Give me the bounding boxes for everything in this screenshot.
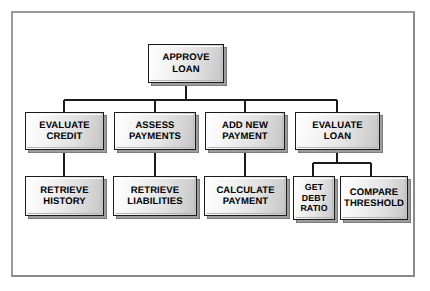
node-retrieve-liabilities[interactable]: RETRIEVE LIABILITIES bbox=[113, 176, 197, 216]
node-compare-threshold-label: COMPARE THRESHOLD bbox=[344, 187, 404, 210]
node-evaluate-loan-label: EVALUATE LOAN bbox=[312, 120, 363, 143]
node-calculate-payment-label: CALCULATE PAYMENT bbox=[216, 185, 274, 208]
node-retrieve-history-label: RETRIEVE HISTORY bbox=[40, 185, 88, 208]
node-get-debt-ratio[interactable]: GET DEBT RATIO bbox=[293, 176, 335, 220]
node-calculate-payment[interactable]: CALCULATE PAYMENT bbox=[204, 176, 287, 216]
node-evaluate-credit-label: EVALUATE CREDIT bbox=[39, 120, 90, 143]
node-evaluate-credit[interactable]: EVALUATE CREDIT bbox=[25, 112, 104, 150]
node-evaluate-loan[interactable]: EVALUATE LOAN bbox=[295, 112, 380, 150]
node-assess-payments-label: ASSESS PAYMENTS bbox=[129, 120, 181, 143]
node-approve-loan-label: APPROVE LOAN bbox=[162, 52, 209, 75]
node-add-new-payment[interactable]: ADD NEW PAYMENT bbox=[205, 112, 285, 150]
node-retrieve-liabilities-label: RETRIEVE LIABILITIES bbox=[127, 185, 182, 208]
node-compare-threshold[interactable]: COMPARE THRESHOLD bbox=[340, 176, 408, 220]
diagram-page: APPROVE LOAN EVALUATE CREDIT ASSESS PAYM… bbox=[0, 0, 430, 291]
node-get-debt-ratio-label: GET DEBT RATIO bbox=[300, 182, 327, 214]
diagram-canvas: APPROVE LOAN EVALUATE CREDIT ASSESS PAYM… bbox=[0, 0, 430, 291]
node-approve-loan[interactable]: APPROVE LOAN bbox=[148, 44, 224, 83]
node-add-new-payment-label: ADD NEW PAYMENT bbox=[222, 120, 268, 143]
node-retrieve-history[interactable]: RETRIEVE HISTORY bbox=[25, 176, 104, 216]
node-assess-payments[interactable]: ASSESS PAYMENTS bbox=[114, 112, 196, 150]
